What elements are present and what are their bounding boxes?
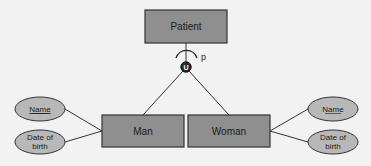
attribute-woman-name[interactable]: Name [308,97,358,121]
man-dob-attr-line [65,131,102,142]
entity-woman[interactable]: Woman [188,115,270,147]
union-circle-icon: U [181,62,191,72]
attribute-woman-name-label: Name [322,105,344,114]
entity-man[interactable]: Man [102,115,184,147]
entity-man-label: Man [133,126,152,137]
union-to-woman-line [189,71,229,115]
attribute-woman-dob[interactable]: Date of birth [308,130,358,154]
union-symbol: U [183,64,188,71]
participation-label: p [201,52,206,62]
attribute-woman-dob-line2: birth [325,142,341,151]
entity-woman-label: Woman [212,126,246,137]
eer-diagram: Patient p U Man Woman Name Date of birth… [0,0,371,166]
woman-name-attr-line [270,109,308,131]
attribute-woman-dob-line1: Date of [320,133,347,142]
woman-dob-attr-line [270,131,308,142]
attribute-man-name-label: Name [29,105,51,114]
attribute-man-dob-line1: Date of [27,133,54,142]
entity-patient-label: Patient [170,21,201,32]
attribute-man-dob-line2: birth [32,142,48,151]
union-to-man-line [143,71,183,115]
entity-patient[interactable]: Patient [145,10,227,43]
attribute-man-dob[interactable]: Date of birth [15,130,65,154]
man-name-attr-line [65,109,102,131]
attribute-man-name[interactable]: Name [15,97,65,121]
